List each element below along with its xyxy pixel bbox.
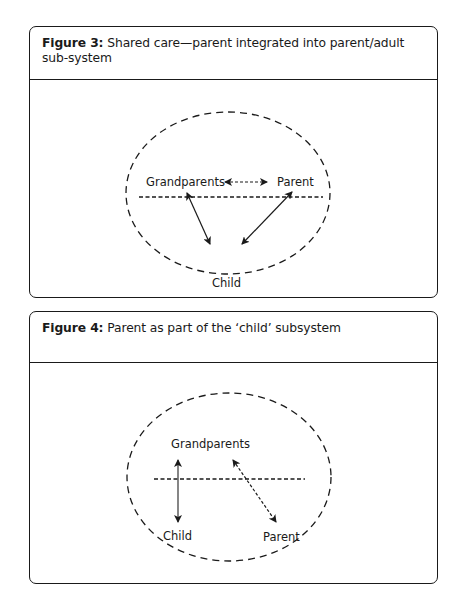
family-system-boundary <box>126 112 330 274</box>
figure-4-panel: Figure 4: Parent as part of the ‘child’ … <box>29 311 438 584</box>
node-child: Child <box>163 529 192 543</box>
figure-3-panel: Figure 3: Shared care—parent integrated … <box>29 26 438 298</box>
figure-4-caption: Figure 4: Parent as part of the ‘child’ … <box>30 312 437 363</box>
figure-3-caption: Figure 3: Shared care—parent integrated … <box>30 27 437 80</box>
figure-4-caption-text: Parent as part of the ‘child’ subsystem <box>107 321 341 335</box>
figure-3-number: Figure 3: <box>42 36 103 50</box>
node-parent: Parent <box>277 175 314 189</box>
figure-4-svg: Grandparents Child Parent <box>30 363 437 582</box>
edge-grandparents-child <box>187 193 210 244</box>
figure-4-number: Figure 4: <box>42 321 103 335</box>
node-grandparents: Grandparents <box>171 437 250 451</box>
family-system-boundary <box>127 393 331 561</box>
node-child: Child <box>212 276 241 290</box>
node-parent: Parent <box>263 530 300 544</box>
figure-3-diagram: Grandparents Parent Child <box>30 80 437 296</box>
node-grandparents: Grandparents <box>146 175 225 189</box>
edge-parent-child <box>242 192 292 244</box>
edge-grandparents-parent <box>233 460 276 522</box>
figure-3-svg: Grandparents Parent Child <box>30 80 437 296</box>
figure-4-diagram: Grandparents Child Parent <box>30 363 437 582</box>
